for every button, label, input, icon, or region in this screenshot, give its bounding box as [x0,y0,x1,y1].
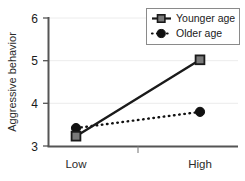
legend-label-older-age: Older age [176,27,222,39]
x-category-label-high: High [188,158,212,170]
chart-container: 6 5 4 3 Aggressive behavior Low High Y [0,0,245,181]
series-younger-age [72,55,205,140]
circle-marker-icon [157,29,165,37]
y-tick-label-6: 6 [31,12,38,26]
y-tick-label-3: 3 [31,140,38,154]
x-category-label-low: Low [65,158,87,170]
line-chart: 6 5 4 3 Aggressive behavior Low High Y [0,0,245,181]
legend-label-younger-age: Younger age [176,12,235,24]
square-marker-icon [158,15,165,22]
y-tick-label-5: 5 [31,54,38,68]
older-age-point-high [195,107,204,116]
y-axis-label: Aggressive behavior [6,32,18,132]
younger-age-point-low [72,132,81,141]
series-older-age [71,107,204,132]
younger-age-point-high [196,55,205,64]
younger-age-line [76,60,200,136]
y-tick-label-4: 4 [31,97,38,111]
legend: Younger age Older age [147,9,240,45]
